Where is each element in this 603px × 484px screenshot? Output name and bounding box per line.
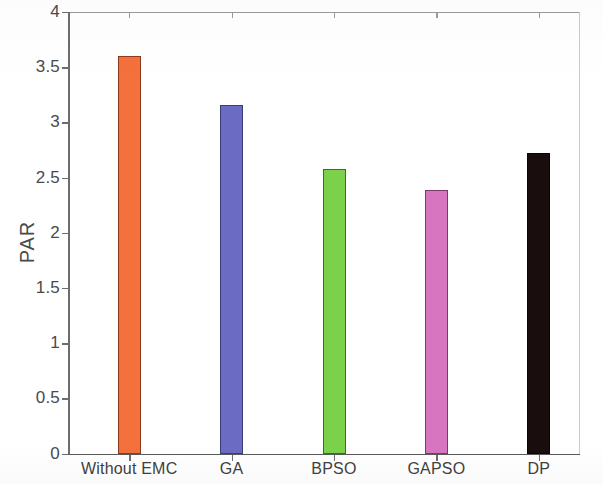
y-tick-label: 0.5 — [36, 388, 60, 408]
y-tick-label: 1 — [50, 333, 60, 353]
bar-chart-figure: PAR 00.511.522.533.54 Without EMCGABPSOG… — [0, 0, 603, 484]
y-tick-mark — [62, 178, 68, 179]
axis-spine-bottom — [68, 454, 580, 456]
y-axis-label: PAR — [16, 221, 39, 264]
bar — [220, 105, 243, 454]
x-tick-mark-top — [334, 12, 335, 18]
x-tick-label: Without EMC — [81, 460, 177, 478]
y-tick-label: 4 — [50, 2, 60, 22]
x-tick-label: DP — [527, 460, 550, 478]
axis-spine-top — [68, 12, 580, 13]
bar — [527, 153, 550, 453]
y-tick-label: 2 — [50, 223, 60, 243]
y-tick-mark — [62, 12, 68, 13]
axis-spine-right — [579, 12, 580, 455]
y-tick-mark — [62, 233, 68, 234]
x-tick-label: GA — [220, 460, 244, 478]
y-tick-mark — [62, 343, 68, 344]
x-tick-mark-top — [129, 12, 130, 18]
x-tick-label: GAPSO — [407, 460, 465, 478]
y-tick-mark — [62, 122, 68, 123]
y-tick-label: 0 — [50, 444, 60, 464]
plot-area: 00.511.522.533.54 — [68, 12, 580, 455]
y-tick-label: 2.5 — [36, 168, 60, 188]
bar — [118, 56, 141, 453]
axis-spine-left — [68, 12, 70, 455]
bar — [323, 169, 346, 454]
y-tick-label: 1.5 — [36, 278, 60, 298]
x-tick-label: BPSO — [311, 460, 356, 478]
y-tick-mark — [62, 398, 68, 399]
x-tick-mark-top — [539, 12, 540, 18]
y-tick-mark — [62, 288, 68, 289]
bar — [425, 190, 448, 454]
y-tick-label: 3.5 — [36, 57, 60, 77]
x-tick-mark-top — [232, 12, 233, 18]
x-tick-mark-top — [436, 12, 437, 18]
y-tick-mark — [62, 67, 68, 68]
y-tick-label: 3 — [50, 112, 60, 132]
y-tick-mark — [62, 454, 68, 455]
